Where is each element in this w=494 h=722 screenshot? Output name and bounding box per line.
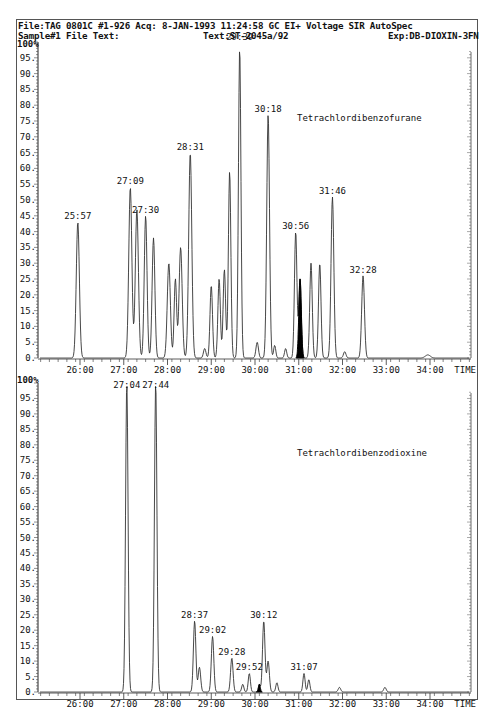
x-tick-label: 34:00 xyxy=(416,365,443,375)
chromatogram-plots: 0.5.10.15.20.25.30.35.40.45.50.55.60.65.… xyxy=(0,0,494,722)
x-tick-label: 33:00 xyxy=(373,699,400,709)
y-tick-label: 95. xyxy=(20,53,36,63)
y-tick-label: 95. xyxy=(20,393,36,403)
x-tick-label: 30:00 xyxy=(241,699,268,709)
peak-label: 30:12 xyxy=(250,610,277,620)
peak-label: 31:46 xyxy=(319,186,346,196)
peak-label: 31:07 xyxy=(290,662,317,672)
y-tick-label: 85. xyxy=(20,424,36,434)
x-tick-label: 31:00 xyxy=(285,699,312,709)
y-tick-label: 30. xyxy=(20,594,36,604)
peak-label: 27:44 xyxy=(142,380,169,390)
y-tick-label: 5. xyxy=(25,672,36,682)
y-tick-label: 15. xyxy=(20,306,36,316)
x-tick-label: 26:00 xyxy=(66,365,93,375)
y-tick-label: 0. xyxy=(25,687,36,697)
y-tick-label: 35. xyxy=(20,579,36,589)
y-tick-label: 50. xyxy=(20,533,36,543)
y-tick-label: 60. xyxy=(20,502,36,512)
x-tick-label: 26:00 xyxy=(66,699,93,709)
y-tick-label: 45. xyxy=(20,211,36,221)
y-tick-label: 20. xyxy=(20,625,36,635)
x-axis-label: TIME xyxy=(454,699,476,709)
y-top-label: 100% xyxy=(17,375,39,385)
y-tick-label: 40. xyxy=(20,563,36,573)
y-tick-label: 10. xyxy=(20,656,36,666)
y-tick-label: 0. xyxy=(25,353,36,363)
x-tick-label: 32:00 xyxy=(329,699,356,709)
y-tick-label: 25. xyxy=(20,274,36,284)
x-tick-label: 29:00 xyxy=(198,365,225,375)
y-tick-label: 60. xyxy=(20,163,36,173)
y-tick-label: 65. xyxy=(20,148,36,158)
x-tick-label: 28:00 xyxy=(154,699,181,709)
y-tick-label: 5. xyxy=(25,337,36,347)
chromatogram-trace xyxy=(40,52,469,358)
y-tick-label: 55. xyxy=(20,517,36,527)
peak-label: 28:31 xyxy=(177,142,204,152)
y-tick-label: 25. xyxy=(20,610,36,620)
y-tick-label: 10. xyxy=(20,321,36,331)
x-axis-label: TIME xyxy=(454,365,476,375)
compound-title: Tetrachlordibenzofurane xyxy=(297,113,422,123)
peak-label: 27:30 xyxy=(132,205,159,215)
peak-label: 27:04 xyxy=(113,380,140,390)
y-tick-label: 40. xyxy=(20,227,36,237)
peak-label: 30:18 xyxy=(255,104,282,114)
y-tick-label: 30. xyxy=(20,258,36,268)
peak-label: 29:28 xyxy=(218,647,245,657)
y-tick-label: 55. xyxy=(20,179,36,189)
x-tick-label: 27:00 xyxy=(110,365,137,375)
y-tick-label: 90. xyxy=(20,69,36,79)
x-tick-label: 27:00 xyxy=(110,699,137,709)
y-tick-label: 35. xyxy=(20,242,36,252)
y-tick-label: 90. xyxy=(20,409,36,419)
peak-label: 30:56 xyxy=(282,221,309,231)
x-tick-label: 28:00 xyxy=(154,365,181,375)
y-tick-label: 65. xyxy=(20,486,36,496)
x-tick-label: 34:00 xyxy=(416,699,443,709)
y-tick-label: 70. xyxy=(20,132,36,142)
y-tick-label: 50. xyxy=(20,195,36,205)
peak-label: 29:52 xyxy=(236,662,263,672)
peak-label: 25:57 xyxy=(64,211,91,221)
compound-title: Tetrachlordibenzodioxine xyxy=(297,448,427,458)
y-tick-label: 75. xyxy=(20,455,36,465)
x-tick-label: 33:00 xyxy=(373,365,400,375)
x-tick-label: 31:00 xyxy=(285,365,312,375)
y-tick-label: 80. xyxy=(20,100,36,110)
x-tick-label: 29:00 xyxy=(198,699,225,709)
peak-label: 28:37 xyxy=(181,610,208,620)
y-tick-label: 15. xyxy=(20,641,36,651)
peak-label: 27:09 xyxy=(117,176,144,186)
x-tick-label: 32:00 xyxy=(329,365,356,375)
chromatogram-trace xyxy=(40,387,469,693)
x-tick-label: 30:00 xyxy=(241,365,268,375)
y-tick-label: 70. xyxy=(20,471,36,481)
y-top-label: 100% xyxy=(17,39,39,49)
y-tick-label: 20. xyxy=(20,290,36,300)
peak-label: 29:02 xyxy=(199,625,226,635)
y-tick-label: 85. xyxy=(20,84,36,94)
y-tick-label: 75. xyxy=(20,116,36,126)
y-tick-label: 45. xyxy=(20,548,36,558)
y-tick-label: 80. xyxy=(20,440,36,450)
peak-label: 29:39 xyxy=(226,32,253,42)
peak-label: 32:28 xyxy=(350,265,377,275)
filled-peak xyxy=(256,684,262,692)
